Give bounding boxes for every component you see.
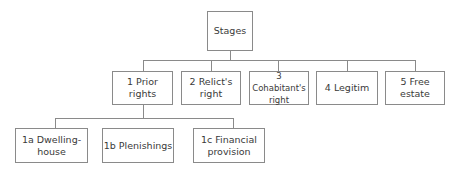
node-stages: Stages bbox=[207, 11, 253, 51]
node-relicts-right: 2 Relict's right bbox=[181, 71, 241, 105]
node-label: 4 Legitim bbox=[325, 82, 369, 94]
node-cohabitants-right: 3 Cohabitant's right bbox=[249, 71, 309, 105]
node-label: 1 Prior rights bbox=[113, 76, 172, 100]
node-label: 1c Financial provision bbox=[199, 134, 259, 158]
connector bbox=[143, 60, 416, 61]
connector bbox=[347, 60, 348, 71]
node-label: 1b Plenishings bbox=[104, 140, 173, 152]
node-financial-provision: 1c Financial provision bbox=[193, 128, 265, 163]
node-plenishings: 1b Plenishings bbox=[102, 128, 174, 163]
node-label: 2 Relict's right bbox=[187, 76, 235, 100]
connector bbox=[143, 105, 144, 119]
node-prior-rights: 1 Prior rights bbox=[112, 71, 173, 105]
connector bbox=[143, 60, 144, 71]
node-label: 1a Dwelling-house bbox=[21, 134, 83, 158]
node-dwelling-house: 1a Dwelling-house bbox=[15, 128, 88, 163]
node-label: 3 Cohabitant's right bbox=[250, 70, 308, 106]
connector bbox=[415, 60, 416, 71]
connector bbox=[55, 118, 234, 119]
connector bbox=[55, 118, 56, 128]
node-label: Stages bbox=[214, 25, 246, 37]
connector bbox=[211, 60, 212, 71]
node-free-estate: 5 Free estate bbox=[385, 71, 445, 105]
node-label: 5 Free estate bbox=[386, 76, 444, 100]
node-legitim: 4 Legitim bbox=[316, 71, 378, 105]
connector bbox=[233, 118, 234, 128]
